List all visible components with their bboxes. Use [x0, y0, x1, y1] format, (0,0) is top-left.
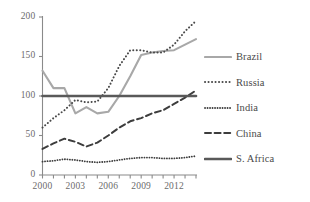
legend-label: Russia — [236, 77, 265, 88]
series-line-india — [43, 156, 197, 162]
x-axis-tick-label: 2000 — [27, 181, 59, 191]
series-line-china — [43, 90, 197, 148]
series-line-brazil — [43, 39, 197, 113]
dashed-line-swatch — [204, 127, 232, 139]
dotted-large-line-swatch — [204, 76, 232, 88]
y-axis-tick-label: 100 — [10, 90, 36, 100]
legend-item-china[interactable]: China — [204, 121, 308, 147]
chart-series-group — [43, 21, 197, 162]
series-line-russia — [43, 21, 197, 128]
legend-label: China — [236, 128, 262, 139]
x-axis-tick-label: 2009 — [125, 181, 157, 191]
y-axis-tick-label: 0 — [10, 169, 36, 179]
legend-label: Brazil — [236, 51, 262, 62]
legend-label: India — [236, 102, 258, 113]
solid-dark-line-swatch — [204, 153, 232, 165]
legend-item-russia[interactable]: Russia — [204, 70, 308, 96]
chart-figure: 200150100500 20002003200620092012 Brazil… — [0, 0, 310, 202]
legend-item-safrica[interactable]: S. Africa — [204, 146, 308, 172]
y-axis-tick-label: 150 — [10, 50, 36, 60]
legend-item-brazil[interactable]: Brazil — [204, 44, 308, 70]
legend-item-india[interactable]: India — [204, 95, 308, 121]
x-axis-tick-label: 2006 — [92, 181, 124, 191]
dotted-fine-line-swatch — [204, 102, 232, 114]
chart-legend: BrazilRussiaIndiaChinaS. Africa — [204, 44, 308, 172]
x-axis-tick-label: 2012 — [158, 181, 190, 191]
y-axis-tick-label: 50 — [10, 129, 36, 139]
solid-gray-line-swatch — [204, 51, 232, 63]
y-axis-tick-label: 200 — [10, 11, 36, 21]
x-axis-tick-label: 2003 — [59, 181, 91, 191]
legend-label: S. Africa — [236, 153, 274, 164]
